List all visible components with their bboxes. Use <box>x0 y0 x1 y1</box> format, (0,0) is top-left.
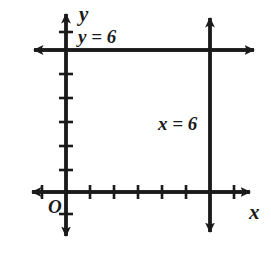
line-y-equals-6-label: y = 6 <box>78 27 116 46</box>
y-axis-label: y <box>79 4 88 25</box>
coordinate-plane-figure: y x O y = 6 x = 6 <box>0 0 271 256</box>
line-x-equals-6-label: x = 6 <box>158 114 197 133</box>
coordinate-plane-svg <box>0 0 271 256</box>
x-axis-label: x <box>249 202 260 223</box>
origin-label: O <box>48 197 62 216</box>
